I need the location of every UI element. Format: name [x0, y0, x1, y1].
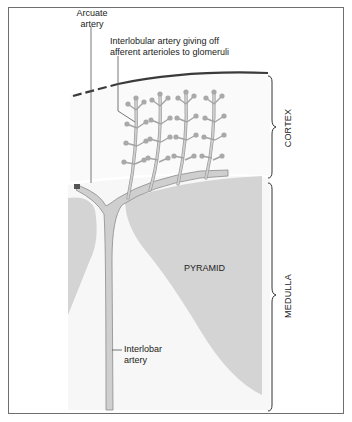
interlobular-artery-label: Interlobular artery giving off afferent … — [110, 36, 280, 58]
arcuate-label-line1: Arcuate — [72, 8, 112, 19]
interlobar-label-line1: Interlobar — [124, 344, 162, 355]
interlobular-label-line2: afferent arterioles to glomeruli — [110, 47, 280, 58]
interlobular-label-line1: Interlobular artery giving off — [110, 36, 280, 47]
kidney-diagram — [0, 0, 352, 422]
medulla-label: MEDULLA — [283, 272, 293, 320]
arcuate-stub — [74, 184, 80, 189]
interlobar-label-line2: artery — [124, 355, 162, 366]
pyramid-label: PYRAMID — [184, 263, 225, 274]
arcuate-artery-label: Arcuate artery — [72, 8, 112, 30]
cortex-label: CORTEX — [283, 108, 293, 148]
arcuate-label-line2: artery — [72, 19, 112, 30]
interlobar-artery-label: Interlobar artery — [124, 344, 162, 366]
